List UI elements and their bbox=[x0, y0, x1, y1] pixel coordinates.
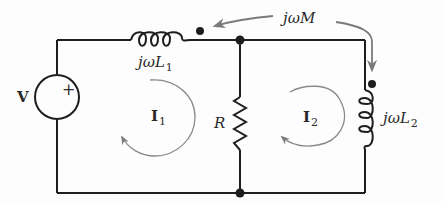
circuit-diagram: + V jωL1 R jωL2 jωM I1 I2 bbox=[0, 0, 444, 203]
inductor-l1-label: jωL1 bbox=[138, 55, 173, 70]
inductor-l2-label: jωL2 bbox=[383, 111, 418, 126]
wires bbox=[57, 40, 365, 193]
source-label: V bbox=[17, 90, 29, 105]
mutual-arrow-down-icon bbox=[336, 22, 372, 70]
resistor bbox=[234, 97, 246, 150]
inductor-l1-label-sub: 1 bbox=[166, 61, 173, 74]
inductor-l1 bbox=[131, 32, 190, 46]
mutual-arrow-left-icon bbox=[215, 16, 273, 26]
mesh-current-2-main: I bbox=[303, 108, 310, 126]
inductor-l1-label-main: jωL bbox=[138, 53, 165, 71]
polarity-dot-l2-icon bbox=[368, 80, 376, 88]
mesh-current-2-sub: 2 bbox=[311, 116, 318, 129]
junction-node-bottom-icon bbox=[236, 189, 245, 198]
mesh-current-1-label: I1 bbox=[151, 109, 166, 124]
circuit-schematic bbox=[0, 0, 444, 203]
mutual-inductance-label: jωM bbox=[283, 11, 315, 26]
resistor-label: R bbox=[214, 116, 225, 131]
mesh-current-1-main: I bbox=[151, 107, 158, 125]
junction-node-top-icon bbox=[236, 36, 245, 45]
inductor-l2-label-sub: 2 bbox=[411, 117, 418, 130]
polarity-dot-l1-icon bbox=[196, 27, 204, 35]
inductor-l2-label-main: jωL bbox=[383, 109, 410, 127]
source-polarity-label: + bbox=[62, 82, 75, 98]
mesh-current-1-sub: 1 bbox=[159, 115, 166, 128]
inductor-l2 bbox=[359, 90, 373, 150]
mesh-current-2-label: I2 bbox=[303, 110, 318, 125]
